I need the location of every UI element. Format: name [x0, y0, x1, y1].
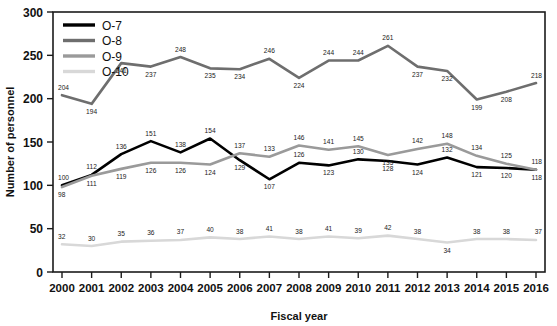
data-label-o-9: 141 [323, 138, 334, 145]
data-label-o-7: 120 [501, 172, 512, 179]
data-label-o-10: 42 [384, 224, 392, 231]
legend-label-o-8: O-8 [102, 34, 122, 48]
data-label-o-9: 118 [531, 174, 542, 181]
data-label-o-9: 137 [234, 142, 245, 149]
x-tick-label: 2012 [405, 282, 431, 294]
data-label-o-7: 151 [145, 130, 156, 137]
data-label-o-10: 30 [88, 235, 96, 242]
data-label-o-10: 38 [236, 228, 244, 235]
x-tick-label: 2006 [227, 282, 253, 294]
data-label-o-10: 34 [443, 247, 451, 254]
data-label-o-8: 248 [175, 46, 186, 53]
x-tick-label: 2000 [49, 282, 75, 294]
data-label-o-8: 244 [323, 49, 334, 56]
data-label-o-10: 40 [206, 226, 214, 233]
data-label-o-10: 32 [58, 233, 66, 240]
x-tick-label: 2013 [434, 282, 460, 294]
data-label-o-8: 237 [145, 71, 156, 78]
legend-label-o-9: O-9 [102, 50, 122, 64]
data-label-o-10: 38 [295, 228, 303, 235]
x-axis-tick-labels: 2000200120022003200420052006200720082009… [49, 282, 549, 294]
data-label-o-9: 142 [412, 137, 423, 144]
data-label-o-9: 135 [382, 159, 393, 166]
data-label-o-9: 98 [58, 191, 66, 198]
y-tick-label: 0 [36, 266, 43, 280]
data-label-o-7: 107 [264, 183, 275, 190]
data-label-o-9: 124 [205, 169, 216, 176]
data-label-o-9: 146 [293, 134, 304, 141]
data-label-o-7: 124 [412, 169, 423, 176]
legend-label-o-10: O-10 [102, 65, 129, 79]
data-label-o-9: 126 [145, 167, 156, 174]
data-label-o-9: 125 [501, 152, 512, 159]
data-label-o-10: 38 [503, 228, 511, 235]
data-label-o-8: 204 [58, 84, 69, 91]
data-label-o-9: 133 [264, 145, 275, 152]
y-axis-tick-labels: 050100150200250300 [23, 6, 43, 280]
data-label-o-8: 234 [234, 73, 245, 80]
x-tick-label: 2015 [494, 282, 520, 294]
data-label-o-10: 37 [535, 228, 543, 235]
data-label-o-8: 232 [442, 75, 453, 82]
x-axis-ticks [62, 272, 536, 278]
x-tick-label: 2005 [197, 282, 223, 294]
data-label-o-9: 111 [87, 180, 97, 187]
chart-figure: 050100150200250300 200020012002200320042… [0, 0, 557, 326]
data-label-o-10: 37 [177, 228, 185, 235]
y-tick-label: 200 [23, 92, 43, 106]
data-label-o-7: 126 [293, 151, 304, 158]
y-tick-label: 50 [30, 222, 44, 236]
x-tick-label: 2014 [464, 282, 490, 294]
data-label-o-7: 100 [58, 174, 69, 181]
y-axis-title: Number of personnel [4, 87, 16, 198]
data-label-o-7: 129 [234, 164, 245, 171]
data-label-o-8: 194 [86, 108, 97, 115]
y-tick-label: 150 [23, 136, 43, 150]
legend-label-o-7: O-7 [102, 19, 122, 33]
x-tick-label: 2003 [138, 282, 164, 294]
x-tick-label: 2010 [345, 282, 371, 294]
data-label-o-9: 119 [116, 173, 127, 180]
y-axis-ticks [47, 12, 53, 272]
data-label-o-7: 132 [442, 146, 453, 153]
y-tick-label: 250 [23, 49, 43, 63]
x-tick-label: 2002 [108, 282, 134, 294]
data-label-o-8: 261 [382, 34, 393, 41]
data-label-o-10: 35 [118, 230, 126, 237]
data-label-o-10: 39 [355, 227, 363, 234]
x-tick-label: 2011 [375, 282, 401, 294]
data-label-o-7: 138 [175, 141, 186, 148]
data-label-o-8: 235 [205, 72, 216, 79]
data-label-o-7: 121 [471, 171, 482, 178]
x-tick-label: 2009 [316, 282, 342, 294]
data-label-o-8: 237 [412, 71, 423, 78]
data-label-o-8: 208 [501, 96, 512, 103]
x-tick-label: 2007 [257, 282, 283, 294]
data-label-o-9: 148 [442, 132, 453, 139]
data-label-o-9: 145 [353, 135, 364, 142]
data-label-o-9: 134 [471, 144, 482, 151]
x-tick-label: 2004 [168, 282, 194, 294]
data-label-o-7: 123 [323, 169, 334, 176]
data-label-o-7: 112 [86, 163, 97, 170]
data-label-o-10: 41 [325, 225, 333, 232]
data-label-o-8: 246 [264, 47, 275, 54]
x-tick-label: 2016 [523, 282, 549, 294]
data-label-o-7: 130 [353, 148, 364, 155]
data-label-o-8: 244 [353, 49, 364, 56]
data-label-o-8: 224 [293, 82, 304, 89]
x-tick-label: 2001 [79, 282, 105, 294]
data-label-o-8: 199 [471, 104, 482, 111]
data-label-o-10: 36 [147, 229, 155, 236]
data-label-o-9: 126 [175, 167, 186, 174]
data-label-o-10: 41 [266, 225, 274, 232]
line-chart: 050100150200250300 200020012002200320042… [0, 0, 557, 326]
x-axis-title: Fiscal year [271, 310, 329, 322]
data-label-o-10: 38 [414, 228, 422, 235]
x-tick-label: 2008 [286, 282, 312, 294]
data-label-o-7: 128 [382, 165, 393, 172]
data-label-o-10: 38 [473, 228, 481, 235]
y-tick-label: 100 [23, 179, 43, 193]
data-label-o-7: 136 [116, 143, 127, 150]
data-label-o-7: 154 [205, 127, 216, 134]
